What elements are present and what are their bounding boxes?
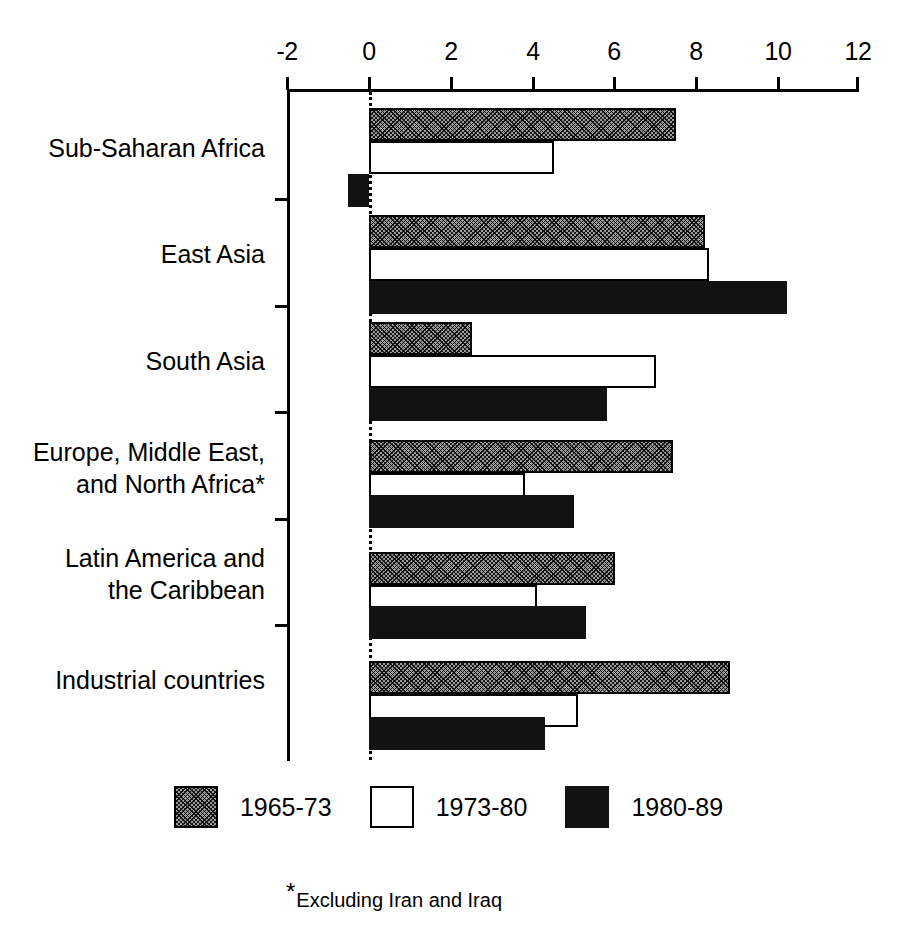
bar-sub-saharan-africa-1980-89 <box>348 174 369 207</box>
bar-industrial-countries-1965-73 <box>369 661 730 694</box>
x-tick-mark <box>532 77 535 90</box>
zero-reference-line <box>369 92 372 760</box>
x-tick-mark <box>777 77 780 90</box>
legend-label: 1980-89 <box>631 793 723 822</box>
bar-east-asia-1973-80 <box>369 248 709 281</box>
bar-latin-america-caribbean-1965-73 <box>369 552 615 585</box>
x-tick-label: 4 <box>526 37 539 66</box>
bar-europe-middle-east-north-africa-1980-89 <box>369 495 574 528</box>
bar-south-asia-1980-89 <box>369 388 607 421</box>
legend-label: 1965-73 <box>240 793 332 822</box>
bar-south-asia-1973-80 <box>369 355 656 388</box>
x-tick-label: 2 <box>444 37 457 66</box>
x-tick-label: 6 <box>607 37 620 66</box>
legend-label: 1973-80 <box>436 793 528 822</box>
bar-sub-saharan-africa-1973-80 <box>369 141 554 174</box>
bar-latin-america-caribbean-1980-89 <box>369 606 586 639</box>
legend-swatch-white-icon <box>370 786 414 828</box>
bar-east-asia-1980-89 <box>369 281 787 314</box>
x-tick-label: 0 <box>362 37 375 66</box>
legend-item-1965-73: 1965-73 <box>174 786 332 828</box>
y-separator-tick <box>275 305 290 308</box>
y-axis-line <box>287 89 290 761</box>
x-tick-label: 12 <box>845 37 872 66</box>
legend-swatch-black-icon <box>565 786 609 828</box>
x-tick-mark <box>368 77 371 90</box>
x-tick-mark <box>286 77 289 90</box>
x-tick-label: 10 <box>765 37 792 66</box>
bar-chart: -2 0 2 4 6 8 10 12 Sub-Saharan Africa Ea… <box>0 0 897 952</box>
category-label-east-asia: East Asia <box>161 238 265 270</box>
footnote-text: Excluding Iran and Iraq <box>296 889 502 911</box>
bar-east-asia-1965-73 <box>369 215 705 248</box>
x-axis-line <box>287 89 859 92</box>
category-label-industrial-countries: Industrial countries <box>55 664 265 696</box>
y-separator-tick <box>275 518 290 521</box>
bar-sub-saharan-africa-1965-73 <box>369 108 676 141</box>
legend-item-1980-89: 1980-89 <box>565 786 723 828</box>
y-separator-tick <box>275 198 290 201</box>
x-tick-mark <box>450 77 453 90</box>
legend-item-1973-80: 1973-80 <box>370 786 528 828</box>
legend-swatch-hatched-icon <box>174 786 218 828</box>
category-label-sub-saharan-africa: Sub-Saharan Africa <box>48 132 265 164</box>
category-label-europe-middle-east-north-africa: Europe, Middle East, and North Africa* <box>33 436 265 500</box>
legend: 1965-73 1973-80 1980-89 <box>0 786 897 828</box>
category-label-south-asia: South Asia <box>145 345 265 377</box>
footnote: *Excluding Iran and Iraq <box>286 878 502 912</box>
y-separator-tick <box>275 411 290 414</box>
category-label-latin-america-caribbean: Latin America and the Caribbean <box>65 542 265 606</box>
bar-europe-middle-east-north-africa-1965-73 <box>369 440 673 473</box>
x-tick-mark <box>856 77 859 90</box>
x-tick-mark <box>695 77 698 90</box>
y-separator-tick <box>275 624 290 627</box>
x-tick-mark <box>613 77 616 90</box>
x-tick-label: 8 <box>689 37 702 66</box>
bar-industrial-countries-1980-89 <box>369 717 545 750</box>
footnote-marker: * <box>286 878 295 905</box>
x-tick-label: -2 <box>276 37 297 66</box>
bar-south-asia-1965-73 <box>369 322 472 355</box>
